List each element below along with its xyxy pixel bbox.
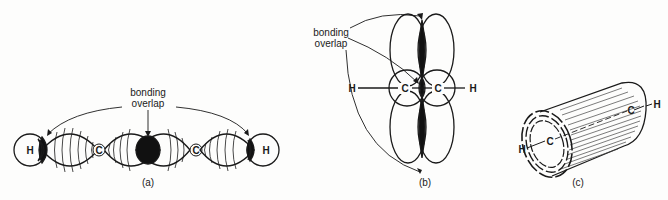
pi-overlap-upper	[419, 20, 425, 82]
atom-c-back: C	[627, 105, 634, 116]
annotation-overlap-b: overlap	[315, 38, 348, 49]
atom-c-left: C	[95, 145, 102, 156]
atom-c-right: C	[192, 145, 199, 156]
annotation-bonding-b: bonding	[313, 27, 349, 38]
atom-h-left: H	[26, 145, 33, 156]
annotation-overlap: overlap	[132, 98, 165, 109]
atom-c-front: C	[546, 136, 553, 147]
pi-overlap-lower	[419, 95, 425, 158]
caption-b: (b)	[419, 177, 431, 188]
atom-h-front: H	[518, 144, 525, 155]
panel-c	[514, 82, 652, 183]
atom-h-left-b: H	[348, 83, 355, 94]
panel-a	[14, 107, 279, 172]
c-lobe-right	[200, 134, 254, 166]
atom-h-right-b: H	[469, 83, 476, 94]
atom-h-back: H	[653, 99, 660, 110]
atom-c-right-b: C	[434, 83, 441, 94]
bond-axis	[555, 111, 627, 139]
orbital-overlap-figure: H C C H bonding overlap (a)	[0, 0, 668, 200]
overlap-center	[136, 136, 160, 164]
cylinder-hatching	[558, 88, 641, 170]
caption-a: (a)	[142, 177, 154, 188]
caption-c: (c)	[572, 177, 584, 188]
atom-c-left-b: C	[401, 83, 408, 94]
atom-h-right: H	[262, 145, 269, 156]
annotation-bonding: bonding	[130, 87, 166, 98]
